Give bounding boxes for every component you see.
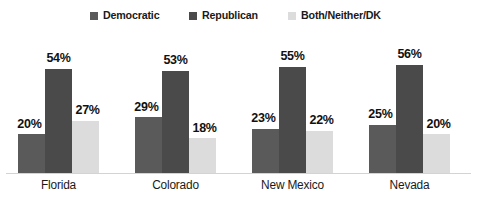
bar-group-colorado: 29% 53% 18% Colorado <box>117 0 234 211</box>
bar-value-label: 56% <box>396 47 422 63</box>
bar-rect-both-neither-dk <box>306 131 333 173</box>
bar-value-label: 18% <box>192 121 218 137</box>
category-label-florida: Florida <box>3 179 114 192</box>
bar-group-bars: 20% 54% 27% <box>0 33 117 173</box>
bar-rect-republican <box>162 71 189 173</box>
bar-value-label: 20% <box>16 117 42 133</box>
bar-rect-republican <box>279 67 306 173</box>
bar-value-label: 20% <box>426 117 452 133</box>
bar-value-label: 22% <box>309 113 335 129</box>
bar-group-nevada: 25% 56% 20% Nevada <box>351 0 468 211</box>
bar-group-bars: 29% 53% 18% <box>117 33 234 173</box>
bar-rect-republican <box>396 65 423 173</box>
bar-rect-both-neither-dk <box>72 121 99 173</box>
bar-value-label: 54% <box>45 51 71 67</box>
bar-value-label: 29% <box>133 100 159 116</box>
bar-group-new-mexico: 23% 55% 22% New Mexico <box>234 0 351 211</box>
bar-rect-both-neither-dk <box>423 134 450 173</box>
bar-rect-democratic <box>18 134 45 173</box>
bar-value-label: 23% <box>250 111 276 127</box>
bar-rect-democratic <box>252 129 279 173</box>
bar-chart: Democratic Republican Both/Neither/DK 20… <box>0 0 477 211</box>
bar-value-label: 55% <box>279 49 305 65</box>
bar-value-label: 27% <box>75 103 101 119</box>
bar-group-bars: 25% 56% 20% <box>351 33 468 173</box>
bar-group-bars: 23% 55% 22% <box>234 33 351 173</box>
bar-rect-republican <box>45 69 72 173</box>
bar-value-label: 53% <box>162 53 188 69</box>
bar-rect-democratic <box>369 125 396 173</box>
category-label-nevada: Nevada <box>354 179 465 192</box>
category-label-new-mexico: New Mexico <box>237 179 348 192</box>
bar-rect-both-neither-dk <box>189 138 216 173</box>
plot-area: 20% 54% 27% Florida 29% <box>0 0 477 211</box>
bar-value-label: 25% <box>367 107 393 123</box>
bar-group-florida: 20% 54% 27% Florida <box>0 0 117 211</box>
category-label-colorado: Colorado <box>120 179 231 192</box>
bar-rect-democratic <box>135 117 162 173</box>
